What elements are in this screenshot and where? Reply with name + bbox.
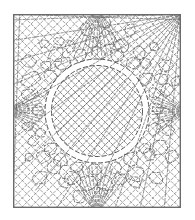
- mosaic-pattern-drawing: Mosaic Pattern Tile Square bordered pane…: [0, 0, 195, 220]
- pattern-figure-stage: Mosaic Pattern Tile Square bordered pane…: [0, 0, 195, 220]
